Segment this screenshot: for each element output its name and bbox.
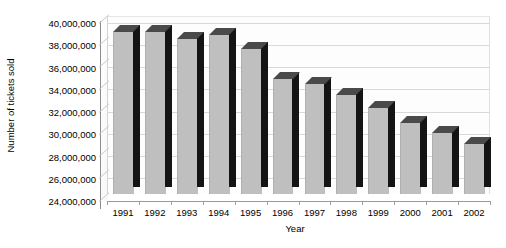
x-axis-tick-label: 2001 [432,207,453,218]
x-axis-tick-label: 1994 [208,207,229,218]
x-axis-tick-mark [426,201,427,205]
x-axis-tick-label: 2000 [400,207,421,218]
bar-1996 [273,72,293,194]
y-axis-tick-label: 28,000,000 [48,151,96,162]
x-axis-tick-mark [362,201,363,205]
x-axis-tick-label: 1999 [368,207,389,218]
y-axis-title-label: Number of tickets sold [6,58,17,152]
y-axis-tick-label: 32,000,000 [48,107,96,118]
x-axis-tick-label: 1998 [336,207,357,218]
bars-layer [107,16,490,194]
x-axis-tick-mark [394,201,395,205]
bar-front-face [273,79,294,194]
bar-side-face [261,42,268,187]
x-axis-tick-mark [299,201,300,205]
x-axis-title-label: Year [285,223,304,234]
x-axis-tick-mark [107,201,108,205]
bar-front-face [368,108,389,194]
x-axis-tick-mark [235,201,236,205]
bar-side-face [420,116,427,187]
bar-side-face [324,77,331,187]
x-axis-tick-label: 1997 [304,207,325,218]
bar-front-face [241,49,262,194]
bar-front-face [464,144,485,194]
x-axis-tick-label: 1995 [240,207,261,218]
bar-side-face [197,32,204,187]
x-axis-tick-label: 1993 [176,207,197,218]
bar-side-face [356,88,363,187]
x-axis-tick-mark [171,201,172,205]
bar-front-face [336,95,357,194]
plot-area: 40,000,00038,000,00036,000,00034,000,000… [100,16,490,201]
y-axis-tick-label: 40,000,000 [48,18,96,29]
bar-front-face [113,32,134,194]
bar-1998 [336,88,356,194]
bar-side-face [165,25,172,187]
bar-1992 [145,25,165,194]
bar-2001 [432,126,452,194]
x-axis-tick-label: 1996 [272,207,293,218]
bar-front-face [145,32,166,194]
bar-1993 [177,32,197,194]
y-axis-tick-label: 30,000,000 [48,129,96,140]
bar-side-face [292,72,299,187]
x-axis-tick-mark [458,201,459,205]
bar-1999 [368,101,388,194]
x-axis-tick-mark [139,201,140,205]
bar-front-face [305,84,326,194]
y-axis-title: Number of tickets sold [0,0,22,210]
x-axis-tick-mark [267,201,268,205]
x-axis-tick-mark [203,201,204,205]
x-axis-title: Year [100,223,490,234]
bar-side-face [484,137,491,187]
bar-2000 [400,116,420,194]
x-axis-tick-mark [490,201,491,205]
y-axis-tick-label: 34,000,000 [48,84,96,95]
y-axis-tick-label: 38,000,000 [48,40,96,51]
bar-side-face [133,25,140,187]
x-axis-tick-labels: 1991199219931994199519961997199819992000… [100,204,490,220]
bar-front-face [177,39,198,194]
y-axis-tick-label: 36,000,000 [48,62,96,73]
y-axis-tick-label: 24,000,000 [48,196,96,207]
y-axis-tick-label: 26,000,000 [48,173,96,184]
x-axis-tick-label: 1991 [112,207,133,218]
bar-1997 [305,77,325,194]
bar-2002 [464,137,484,194]
bar-front-face [432,133,453,194]
x-axis-tick-mark [330,201,331,205]
bar-1995 [241,42,261,194]
bar-side-face [388,101,395,187]
bar-1994 [209,28,229,194]
bar-side-face [229,28,236,187]
x-axis-tick-label: 2002 [463,207,484,218]
bar-front-face [400,123,421,194]
bar-chart: Number of tickets sold 40,000,00038,000,… [0,0,506,248]
bar-front-face [209,35,230,194]
bar-1991 [113,25,133,194]
x-axis-tick-label: 1992 [144,207,165,218]
bar-side-face [452,126,459,187]
